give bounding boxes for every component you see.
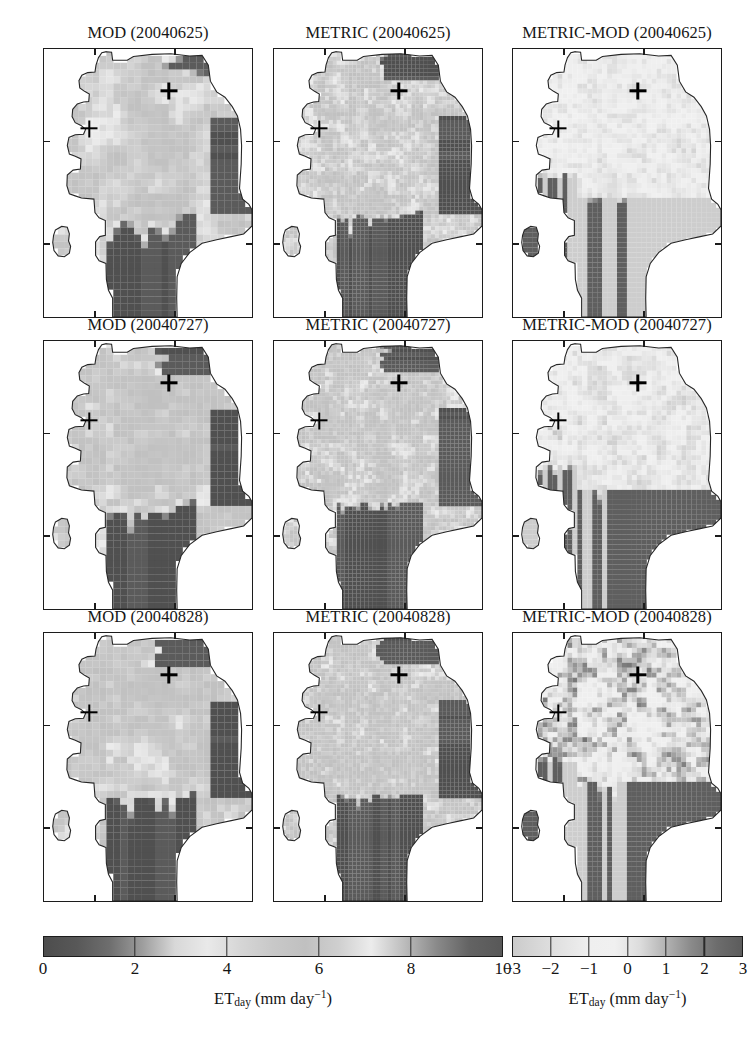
site-marker-west-site xyxy=(81,120,98,137)
panel-axes-frame xyxy=(273,632,483,902)
axis-tick xyxy=(513,725,519,727)
colorbar-track xyxy=(512,936,743,957)
axis-tick xyxy=(513,827,519,829)
site-marker-west-site xyxy=(550,704,567,721)
map-graphic xyxy=(44,633,252,901)
raster-cells xyxy=(523,54,721,317)
panel-title: METRIC-MOD (20040727) xyxy=(522,315,712,335)
axis-tick xyxy=(476,141,482,143)
axis-tick xyxy=(94,341,96,347)
axis-tick xyxy=(44,535,50,537)
map-graphic xyxy=(513,341,721,609)
site-marker-north-site xyxy=(160,82,177,99)
colorbar-axis-units-exponent: −1 xyxy=(314,988,326,1000)
site-marker-west-site xyxy=(311,704,328,721)
colorbar-tick-label: 0 xyxy=(623,959,632,979)
axis-tick xyxy=(643,341,645,347)
site-marker-north-site xyxy=(390,82,407,99)
colorbar-et-day-diff: −3−2−10123ETday (mm day−1) xyxy=(512,936,743,1026)
site-marker-west-site xyxy=(550,412,567,429)
axis-tick xyxy=(404,895,406,901)
figure-canvas: MOD (20040625)METRIC (20040625)METRIC-MO… xyxy=(0,0,755,1052)
panel-title: MOD (20040727) xyxy=(87,315,208,335)
panel-axes-frame xyxy=(512,632,722,902)
axis-tick xyxy=(274,243,280,245)
site-marker-north-site xyxy=(160,666,177,683)
axis-tick xyxy=(715,827,721,829)
axis-tick xyxy=(643,895,645,901)
axis-tick xyxy=(324,895,326,901)
axis-tick xyxy=(513,433,519,435)
colorbar-tick-label: −1 xyxy=(580,959,598,979)
map-graphic xyxy=(513,633,721,901)
axis-tick xyxy=(94,633,96,639)
axis-tick xyxy=(246,243,252,245)
map-panel-metric-mod-20040625: METRIC-MOD (20040625) xyxy=(512,48,722,318)
axis-tick xyxy=(476,827,482,829)
axis-tick xyxy=(324,49,326,55)
map-panel-metric-20040727: METRIC (20040727) xyxy=(273,340,483,610)
panel-title: METRIC-MOD (20040625) xyxy=(522,23,712,43)
panel-axes-frame xyxy=(43,632,253,902)
map-panel-mod-20040727: MOD (20040727) xyxy=(43,340,253,610)
axis-tick xyxy=(324,633,326,639)
panel-axes-frame xyxy=(43,48,253,318)
map-panel-metric-20040625: METRIC (20040625) xyxy=(273,48,483,318)
axis-tick xyxy=(476,535,482,537)
axis-tick xyxy=(174,895,176,901)
axis-tick xyxy=(715,141,721,143)
site-marker-north-site xyxy=(629,666,646,683)
raster-cells xyxy=(282,53,482,317)
axis-tick xyxy=(44,725,50,727)
site-marker-west-site xyxy=(81,704,98,721)
axis-tick xyxy=(715,433,721,435)
panel-axes-frame xyxy=(273,340,483,610)
axis-tick xyxy=(513,535,519,537)
colorbar-axis-label: ETday (mm day−1) xyxy=(569,988,687,1009)
map-graphic xyxy=(44,49,252,317)
axis-tick xyxy=(246,725,252,727)
map-raster xyxy=(44,49,252,317)
axis-tick xyxy=(476,725,482,727)
map-raster xyxy=(274,49,482,317)
axis-tick xyxy=(404,633,406,639)
map-graphic xyxy=(44,341,252,609)
colorbar-tick-label: 0 xyxy=(39,959,48,979)
map-panel-metric-mod-20040727: METRIC-MOD (20040727) xyxy=(512,340,722,610)
colorbar-gradient xyxy=(44,937,502,956)
colorbar-axis-units-post: ) xyxy=(326,989,332,1008)
axis-tick xyxy=(274,725,280,727)
axis-tick xyxy=(174,341,176,347)
axis-tick xyxy=(404,341,406,347)
colorbar-tick-label: −3 xyxy=(503,959,521,979)
colorbar-tick-label: 8 xyxy=(407,959,416,979)
raster-cells xyxy=(523,346,721,609)
colorbar-axis-label-sub: day xyxy=(234,996,251,1008)
colorbar-axis-label-main: ET xyxy=(214,989,234,1008)
colorbar-axis-units-post: ) xyxy=(681,989,687,1008)
panel-title: METRIC (20040625) xyxy=(305,23,450,43)
axis-tick xyxy=(476,433,482,435)
map-panel-mod-20040625: MOD (20040625) xyxy=(43,48,253,318)
axis-tick xyxy=(246,433,252,435)
panel-axes-frame xyxy=(273,48,483,318)
map-raster xyxy=(513,341,721,609)
site-marker-west-site xyxy=(81,412,98,429)
map-raster xyxy=(44,633,252,901)
colorbar-gradient xyxy=(513,937,742,956)
axis-tick xyxy=(715,243,721,245)
map-panel-metric-mod-20040828: METRIC-MOD (20040828) xyxy=(512,632,722,902)
site-marker-north-site xyxy=(629,374,646,391)
panel-axes-frame xyxy=(512,48,722,318)
panel-title: MOD (20040828) xyxy=(87,607,208,627)
colorbar-tick-label: 2 xyxy=(131,959,140,979)
colorbar-tick-label: 6 xyxy=(315,959,324,979)
axis-tick xyxy=(44,243,50,245)
axis-tick xyxy=(563,895,565,901)
map-raster xyxy=(513,49,721,317)
axis-tick xyxy=(44,141,50,143)
axis-tick xyxy=(476,243,482,245)
site-marker-west-site xyxy=(550,120,567,137)
panel-title: MOD (20040625) xyxy=(87,23,208,43)
colorbar-axis-label-main: ET xyxy=(569,989,589,1008)
